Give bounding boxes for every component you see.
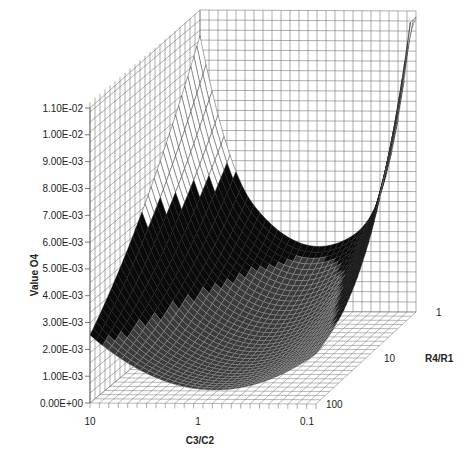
z-tick: 1.00E-03	[42, 371, 83, 382]
y-tick-10: 10	[384, 353, 396, 364]
x-axis-label: C3/C2	[186, 435, 215, 446]
z-tick: 2.00E-03	[42, 344, 83, 355]
y-tick-1: 1	[436, 307, 442, 318]
z-tick: 1.10E-02	[42, 103, 83, 114]
z-axis-label: Value O4	[29, 253, 40, 296]
z-tick: 1.00E-02	[42, 129, 83, 140]
z-tick: 4.00E-03	[42, 290, 83, 301]
z-tick: 5.00E-03	[42, 263, 83, 274]
x-tick-0.1: 0.1	[300, 416, 314, 427]
z-tick: 0.00E+00	[40, 398, 84, 409]
surface-mesh	[90, 17, 416, 390]
y-axis-label: R4/R1	[425, 353, 454, 364]
x-tick-10: 10	[84, 416, 96, 427]
y-tick-100: 100	[326, 399, 343, 410]
surface-plot: 0.00E+001.00E-032.00E-033.00E-034.00E-03…	[0, 0, 461, 456]
z-tick: 3.00E-03	[42, 317, 83, 328]
x-tick-1: 1	[195, 416, 201, 427]
z-tick: 9.00E-03	[42, 156, 83, 167]
z-tick: 8.00E-03	[42, 183, 83, 194]
z-tick: 7.00E-03	[42, 210, 83, 221]
z-tick: 6.00E-03	[42, 237, 83, 248]
